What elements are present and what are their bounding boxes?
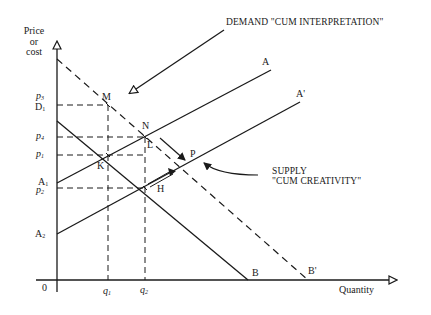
origin-label: 0 (42, 283, 47, 293)
tick-p2: p2 (36, 185, 44, 197)
arrow-n-to-p (160, 138, 185, 160)
tick-q2: q2 (140, 285, 148, 297)
demand-annotation: DEMAND "CUM INTERPRETATION" (226, 17, 383, 27)
demand-annotation-arrow (130, 30, 224, 93)
supply-annotation-arrow (204, 163, 258, 175)
point-k-label: K (97, 161, 104, 171)
curve-a-prime-label: A' (296, 89, 305, 99)
x-axis-label: Quantity (339, 285, 374, 295)
tick-d1: D1 (35, 102, 45, 114)
supply-annotation-line2: "CUM CREATIVITY" (272, 176, 361, 186)
point-p-label: P (190, 149, 196, 159)
y-axis-label-1: Price (14, 26, 54, 36)
tick-a2: A2 (35, 229, 45, 241)
diagram-canvas (0, 0, 431, 315)
point-h-label: H (157, 184, 164, 194)
tick-q1: q1 (103, 286, 111, 298)
point-n-label: N (142, 121, 149, 131)
curve-a-label: A (262, 57, 269, 67)
demand-curve-shifted-dashed (57, 59, 308, 280)
supply-annotation-line1: SUPPLY (272, 166, 307, 176)
y-axis-label-3: cost (14, 47, 54, 57)
point-b-label: B (252, 268, 259, 278)
point-b-prime-label: B' (308, 266, 316, 276)
point-m-label: M (102, 92, 111, 102)
tick-p4: p4 (36, 131, 44, 143)
point-l-label: L (147, 140, 153, 150)
supply-demand-diagram: Price or cost p3 D1 p4 p1 A1 p2 A2 0 q1 … (0, 0, 431, 315)
tick-p1: p1 (36, 149, 44, 161)
supply-curve-a-prime (57, 102, 300, 234)
